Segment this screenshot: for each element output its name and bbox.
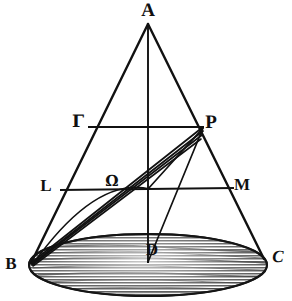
point-label-M: M bbox=[234, 176, 250, 193]
edge-A-C bbox=[148, 24, 264, 259]
point-label-L: L bbox=[40, 177, 51, 194]
figure-canvas: A Γ P L Ω M B D C bbox=[0, 0, 292, 301]
edge-A-B bbox=[31, 24, 148, 263]
edge-P-axis-mid bbox=[148, 128, 203, 189]
point-label-B: B bbox=[5, 255, 16, 272]
point-label-D: D bbox=[146, 241, 158, 258]
point-label-omega: Ω bbox=[105, 174, 118, 189]
point-label-A: A bbox=[141, 1, 155, 20]
point-label-gamma: Γ bbox=[72, 114, 84, 131]
point-label-P: P bbox=[205, 113, 217, 132]
point-label-C: C bbox=[272, 248, 283, 265]
